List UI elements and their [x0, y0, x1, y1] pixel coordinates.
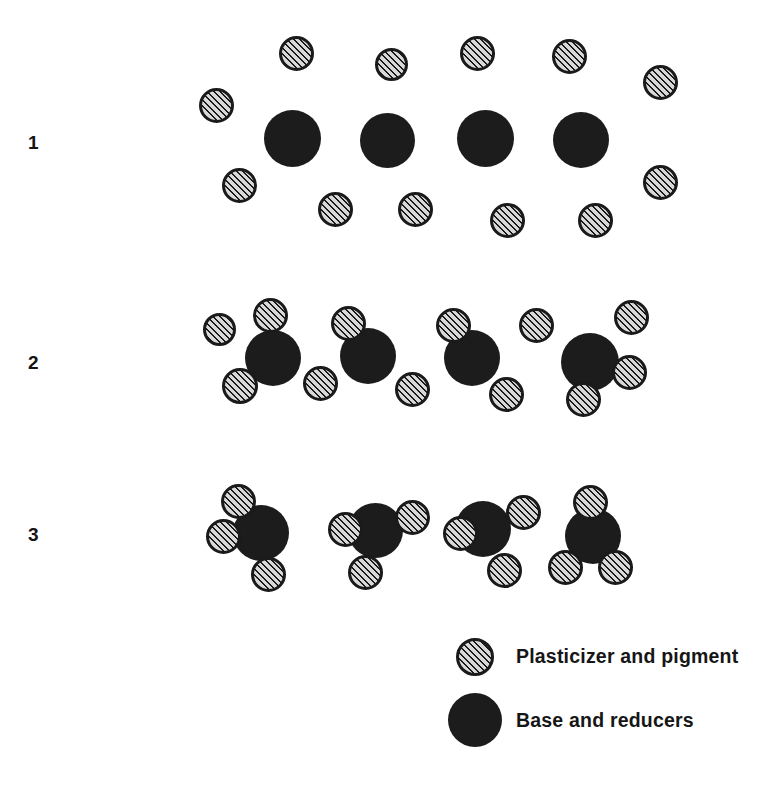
legend-swatch-plasticizer-pigment — [456, 638, 494, 676]
legend-label-1: Base and reducers — [516, 711, 694, 731]
legend: Plasticizer and pigmentBase and reducers — [0, 0, 763, 785]
legend-swatch-base-reducers — [448, 693, 502, 747]
dispersion-diagram: 123Plasticizer and pigmentBase and reduc… — [0, 0, 763, 785]
legend-label-0: Plasticizer and pigment — [516, 647, 738, 667]
